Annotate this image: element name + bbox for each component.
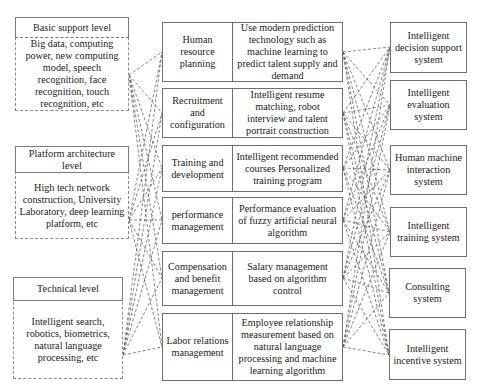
system-box-decision-support: Intelligent decision support system (390, 22, 467, 73)
technical-level-box: Technical level Intelligent search, robo… (13, 277, 123, 379)
connector-level-0-module-2 (129, 75, 162, 168)
connector-module-1-system-1 (343, 105, 390, 113)
module-description: Salary management based on algorithm con… (233, 252, 342, 305)
connector-module-0-system-0 (343, 47, 390, 52)
module-row-hr-planning: Human resource planning Use modern predi… (162, 22, 343, 82)
module-row-training: Training and development Intelligent rec… (162, 145, 343, 192)
basic-support-level-box: Basic support level Big data, computing … (15, 17, 129, 111)
connector-module-1-system-5 (343, 113, 389, 355)
connector-level-0-module-3 (129, 75, 162, 220)
connector-module-5-system-5 (343, 347, 389, 355)
module-row-compensation: Compensation and benefit management Sala… (162, 251, 343, 306)
module-name: Labor relations management (163, 314, 233, 380)
level-description: Intelligent search, robotics, biometrics… (14, 301, 122, 378)
module-description: Employee relationship measurement based … (233, 314, 342, 380)
connector-module-3-system-0 (343, 47, 390, 220)
module-description: Use modern prediction technology such as… (233, 23, 342, 81)
module-name: Training and development (163, 146, 233, 191)
connector-level-2-module-4 (123, 278, 162, 355)
system-box-evaluation: Intelligent evaluation system (390, 80, 467, 130)
connector-module-4-system-0 (343, 47, 390, 278)
system-box-incentive: Intelligent incentive system (389, 329, 466, 380)
connector-level-2-module-5 (123, 347, 162, 355)
module-description: Intelligent resume matching, robot inter… (233, 89, 342, 137)
connector-module-4-system-5 (343, 278, 389, 355)
module-description: Performance evaluation of fuzzy artifici… (233, 198, 342, 243)
connector-module-4-system-1 (343, 105, 390, 278)
connector-level-1-module-5 (129, 220, 162, 347)
platform-architecture-level-box: Platform architecture level High tech ne… (15, 146, 129, 239)
connector-module-0-system-4 (343, 52, 389, 293)
level-title: Technical level (13, 277, 123, 301)
connector-level-1-module-1 (129, 113, 162, 220)
system-box-human-machine-interaction: Human machine interaction system (390, 145, 467, 195)
module-row-performance: performance management Performance evalu… (162, 197, 343, 244)
module-name: Recruitment and configuration (163, 89, 233, 137)
module-name: Human resource planning (163, 23, 233, 81)
connector-module-3-system-5 (343, 220, 389, 355)
connector-module-2-system-2 (343, 168, 390, 170)
module-row-labor-relations: Labor relations management Employee rela… (162, 313, 343, 381)
module-name: Compensation and benefit management (163, 252, 233, 305)
connector-level-0-module-5 (129, 75, 162, 347)
level-title: Platform architecture level (15, 146, 129, 173)
connector-level-0-module-0 (129, 52, 162, 75)
connector-module-0-system-2 (343, 52, 390, 170)
level-description: High tech network construction, Universi… (16, 173, 128, 238)
connector-module-2-system-1 (343, 105, 390, 168)
module-description: Intelligent recommended courses Personal… (233, 146, 342, 191)
connector-module-4-system-3 (343, 232, 390, 278)
connector-module-2-system-3 (343, 168, 390, 232)
connector-level-1-module-0 (129, 52, 162, 220)
level-title: Basic support level (15, 17, 129, 38)
module-row-recruitment: Recruitment and configuration Intelligen… (162, 88, 343, 138)
level-description: Big data, computing power, new computing… (16, 38, 128, 110)
system-box-training: Intelligent training system (390, 207, 467, 257)
module-name: performance management (163, 198, 233, 243)
system-box-consulting: Consulting system (389, 268, 466, 318)
